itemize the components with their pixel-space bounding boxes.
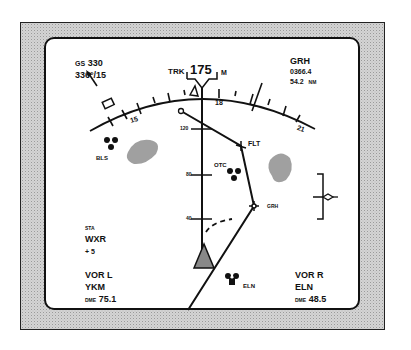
vor-l-label: VOR L bbox=[85, 271, 113, 280]
weather-cell-left bbox=[127, 140, 158, 164]
wind-readout: 336°/15 bbox=[75, 71, 106, 80]
distance-unit: NM bbox=[309, 79, 317, 85]
heading-reference: M bbox=[221, 69, 227, 76]
waypoint-label-grh: GRH bbox=[267, 204, 278, 209]
origin-waypoint-icon bbox=[179, 109, 184, 114]
dme-label: DME bbox=[85, 297, 96, 303]
route-line bbox=[181, 111, 254, 310]
sta-label: STA bbox=[85, 226, 95, 231]
vor-l-dme: DME 75.1 bbox=[85, 295, 116, 304]
weather-cell-right bbox=[268, 153, 291, 182]
navaid-bls-icon bbox=[104, 137, 118, 150]
vor-r-dme: DME 48.5 bbox=[295, 295, 326, 304]
dme-value: 75.1 bbox=[99, 294, 117, 304]
deviation-pointer-icon bbox=[323, 194, 333, 200]
range-label-120: 120 bbox=[180, 126, 188, 131]
trend-vector bbox=[206, 219, 232, 232]
gs-value: 330 bbox=[88, 58, 103, 68]
wxr-tilt: + 5 bbox=[85, 248, 95, 255]
vor-l-id: YKM bbox=[85, 283, 105, 292]
waypoint-flt-icon bbox=[236, 141, 246, 151]
vor-r-id: ELN bbox=[295, 283, 313, 292]
vor-r-label: VOR R bbox=[295, 271, 324, 280]
next-waypoint-id: GRH bbox=[290, 57, 310, 66]
range-label-40: 40 bbox=[186, 216, 192, 221]
trk-label: TRK bbox=[168, 68, 184, 76]
compass-label-18: 18 bbox=[215, 99, 223, 106]
wxr-label: WXR bbox=[85, 235, 106, 244]
gs-label: GS bbox=[75, 60, 85, 67]
waypoint-grh-icon bbox=[249, 201, 259, 211]
map-graphics bbox=[0, 0, 411, 350]
dme-value: 48.5 bbox=[309, 294, 327, 304]
dme-label: DME bbox=[295, 297, 306, 303]
heading-value: 175 bbox=[190, 63, 212, 76]
next-waypoint-distance: 54.2 NM bbox=[290, 78, 316, 85]
waypoint-label-flt: FLT bbox=[248, 140, 260, 147]
navaid-label-eln: ELN bbox=[243, 283, 255, 289]
heading-bug-icon bbox=[190, 86, 198, 96]
navaid-label-bls: BLS bbox=[96, 155, 108, 161]
distance-value: 54.2 bbox=[290, 78, 304, 85]
navaid-eln-icon bbox=[225, 273, 239, 285]
range-label-80: 80 bbox=[186, 172, 192, 177]
groundspeed-readout: GS 330 bbox=[75, 59, 103, 68]
selected-course-box bbox=[102, 98, 114, 109]
navaid-label-otc: OTC bbox=[214, 162, 227, 168]
navaid-otc-icon bbox=[227, 168, 241, 181]
deviation-scale bbox=[313, 174, 323, 219]
next-waypoint-eta: 0366.4 bbox=[290, 68, 311, 75]
aircraft-symbol-icon bbox=[194, 244, 214, 268]
